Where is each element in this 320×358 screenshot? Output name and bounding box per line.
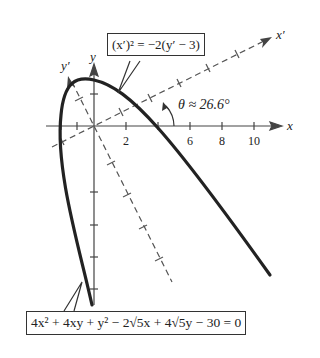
angle-label: θ ≈ 26.6°	[178, 98, 230, 112]
bottom-callout-pointer	[64, 282, 82, 311]
y-label: y	[90, 50, 96, 63]
x-prime-axis	[52, 42, 262, 147]
x-tick-label-10: 10	[248, 135, 260, 147]
top-callout-pointer	[118, 61, 140, 93]
y-prime-label: y′	[61, 59, 70, 72]
angle-arc	[166, 106, 174, 126]
x-tick-label-6: 6	[187, 135, 193, 147]
x-axis	[46, 122, 282, 130]
x-prime-label: x′	[276, 28, 285, 41]
x-tick-label-2: 2	[123, 135, 129, 147]
y-axis	[90, 64, 98, 305]
rotated-equation-callout: (x′)² = −2(y′ − 3)	[107, 33, 205, 56]
x-label: x	[287, 119, 293, 132]
y-prime-axis	[72, 82, 172, 282]
x-tick-label-8: 8	[219, 135, 225, 147]
original-equation-callout: 4x² + 4xy + y² − 2√5x + 4√5y − 30 = 0	[26, 311, 246, 335]
